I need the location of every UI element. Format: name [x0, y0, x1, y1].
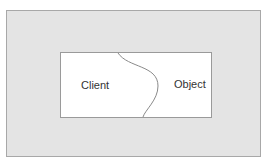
client-label: Client: [81, 79, 109, 91]
divider-curve: [118, 53, 158, 117]
curved-divider: [0, 0, 267, 166]
object-label: Object: [174, 78, 206, 90]
